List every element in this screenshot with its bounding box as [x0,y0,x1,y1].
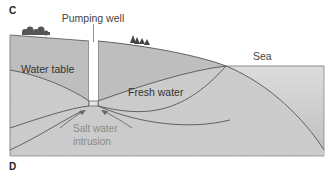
fresh-water-label: Fresh water [128,86,184,98]
salt-water-label-line1: Salt water [73,123,118,134]
trees-left-icon [22,27,50,36]
salt-water-label-line2: intrusion [73,136,111,147]
pumping-well-label: Pumping well [62,12,124,24]
panel-letter-d: D [9,161,16,172]
panel-letter-c: C [9,5,16,16]
sea-label: Sea [253,50,272,62]
pumping-well [89,24,98,106]
salt-water-intrusion-diagram: C D Pumping well Water table Fresh water… [0,0,332,173]
trees-right-icon [130,35,150,45]
water-table-label: Water table [21,63,74,75]
